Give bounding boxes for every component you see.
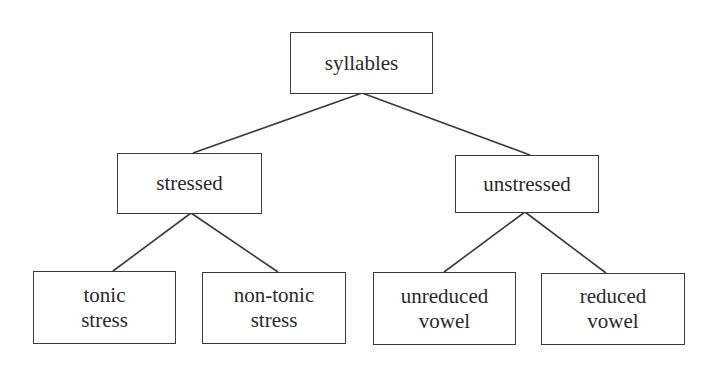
node-label: syllables [325,51,399,76]
edge-stressed-tonic [113,213,191,271]
node-stressed: stressed [117,153,262,214]
node-label-line1: reduced [580,284,646,309]
node-label-line1: non-tonic [234,283,314,308]
node-unreduced-vowel: unreduced vowel [373,272,516,345]
node-non-tonic-stress: non-tonic stress [202,272,346,344]
node-label-line2: stress [81,308,128,333]
edge-unstressed-reduced [525,212,606,273]
edge-stressed-nontonic [191,213,278,272]
node-label: stressed [156,171,223,196]
node-label: unstressed [483,172,571,197]
node-label-line1: unreduced [401,284,488,309]
edge-unstressed-unreduced [444,212,525,272]
edge-syllables-unstressed [362,93,530,155]
node-label-line2: vowel [419,309,470,334]
edge-syllables-stressed [193,93,362,153]
node-unstressed: unstressed [455,155,599,213]
node-syllables: syllables [290,32,433,94]
node-label-line1: tonic [84,283,126,308]
node-tonic-stress: tonic stress [33,271,176,344]
node-label-line2: stress [251,308,298,333]
node-reduced-vowel: reduced vowel [541,273,685,345]
node-label-line2: vowel [587,309,638,334]
